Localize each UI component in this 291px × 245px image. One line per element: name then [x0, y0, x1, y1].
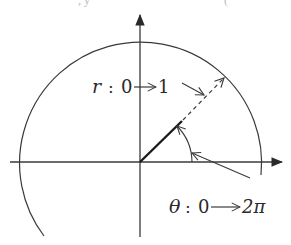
r-pointer-arrow: [182, 83, 204, 95]
cropped-text-fragment-right: (: [224, 0, 228, 7]
r-range-label: r : 0 1: [92, 75, 169, 97]
r-colon: :: [108, 77, 114, 97]
radius-solid-segment: [140, 121, 182, 162]
theta-pointer-arrow: [192, 153, 250, 178]
polar-diagram: , y ( r : 0 1 θ : 0 2π: [0, 0, 291, 245]
theta-range-label: θ : 0 2π: [169, 195, 266, 217]
theta-angle-arc: [177, 126, 192, 162]
r-variable: r: [92, 75, 103, 97]
theta-colon: :: [185, 197, 191, 217]
cropped-text-fragment-left: , y: [78, 0, 90, 7]
theta-to-value: 2π: [241, 196, 266, 217]
theta-from-value: 0: [198, 196, 209, 217]
r-to-value: 1: [158, 76, 169, 97]
r-from-value: 0: [121, 76, 132, 97]
radius-dashed-extension: [183, 78, 224, 120]
theta-variable: θ: [169, 195, 181, 217]
